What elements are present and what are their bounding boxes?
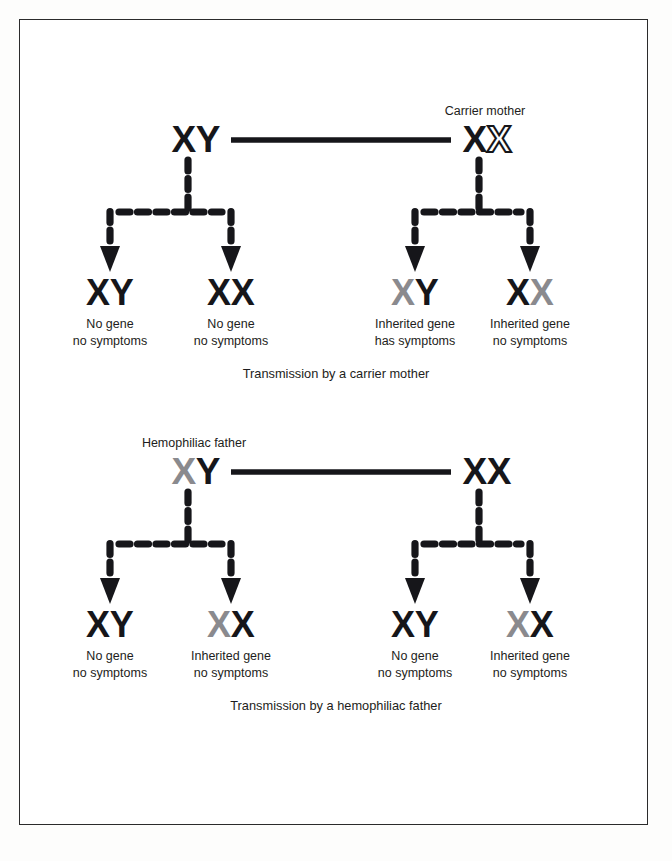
hemophiliac-father-panel-branch-right-dashed-path bbox=[415, 492, 530, 578]
hemophiliac-father-panel-mother-genotype-allele-2-normal: X bbox=[487, 451, 512, 492]
hemophiliac-father-panel-child-3-genotype-allele-1-normal: X bbox=[391, 604, 415, 645]
carrier-mother-panel-branch-left-arrowhead-1-icon bbox=[100, 246, 120, 272]
hemophiliac-father-panel-child-1-genotype-allele-2-normal: Y bbox=[110, 604, 134, 645]
hemophiliac-father-panel-branch-left bbox=[100, 492, 241, 604]
carrier-mother-panel-child-4-line1: Inherited gene bbox=[490, 317, 570, 331]
carrier-mother-panel: XYXXCarrier motherXYNo geneno symptomsXX… bbox=[73, 104, 570, 381]
carrier-mother-panel-child-4-line2: no symptoms bbox=[493, 334, 567, 348]
hemophiliac-father-panel-child-2-genotype-allele-1-affected: X bbox=[207, 604, 231, 645]
hemophiliac-father-panel-mother-genotype-allele-1-normal: X bbox=[462, 451, 487, 492]
carrier-mother-panel-child-3-line1: Inherited gene bbox=[375, 317, 455, 331]
hemophiliac-father-panel-branch-left-arrowhead-1-icon bbox=[100, 578, 120, 604]
carrier-mother-panel-father-genotype: XY bbox=[171, 119, 220, 160]
inheritance-diagram: XYXXCarrier motherXYNo geneno symptomsXX… bbox=[0, 0, 672, 861]
page-canvas: XYXXCarrier motherXYNo geneno symptomsXX… bbox=[0, 0, 672, 861]
hemophiliac-father-panel-child-1-line1: No gene bbox=[86, 649, 133, 663]
carrier-mother-panel-child-4-genotype: XX bbox=[506, 272, 554, 313]
carrier-mother-panel-mother-genotype-allele-2-carrier: X bbox=[487, 119, 512, 160]
hemophiliac-father-panel-child-3-genotype: XY bbox=[391, 604, 439, 645]
hemophiliac-father-panel-child-2-line1: Inherited gene bbox=[191, 649, 271, 663]
hemophiliac-father-panel-branch-right-arrowhead-2-icon bbox=[520, 578, 540, 604]
hemophiliac-father-panel: XYXXHemophiliac fatherXYNo geneno sympto… bbox=[73, 436, 570, 713]
hemophiliac-father-panel-child-1-genotype-allele-1-normal: X bbox=[86, 604, 110, 645]
carrier-mother-panel-branch-right-dashed-path bbox=[415, 160, 530, 246]
carrier-mother-panel-child-3-line2: has symptoms bbox=[375, 334, 456, 348]
carrier-mother-panel-branch-left bbox=[100, 160, 241, 272]
hemophiliac-father-panel-child-1-line2: no symptoms bbox=[73, 666, 147, 680]
carrier-mother-panel-child-3-genotype: XY bbox=[391, 272, 439, 313]
hemophiliac-father-panel-child-2-genotype-allele-2-normal: X bbox=[231, 604, 255, 645]
hemophiliac-father-panel-child-4-genotype-allele-1-affected: X bbox=[506, 604, 530, 645]
carrier-mother-panel-caption: Transmission by a carrier mother bbox=[243, 366, 430, 381]
carrier-mother-panel-mother-label: Carrier mother bbox=[445, 104, 526, 118]
carrier-mother-panel-child-1-line1: No gene bbox=[86, 317, 133, 331]
carrier-mother-panel-child-2-genotype-allele-1-normal: X bbox=[207, 272, 231, 313]
hemophiliac-father-panel-branch-left-arrowhead-2-icon bbox=[221, 578, 241, 604]
carrier-mother-panel-child-2-genotype-allele-2-normal: X bbox=[231, 272, 255, 313]
hemophiliac-father-panel-mother-genotype: XX bbox=[462, 451, 511, 492]
carrier-mother-panel-branch-right-arrowhead-1-icon bbox=[405, 246, 425, 272]
hemophiliac-father-panel-child-4-line1: Inherited gene bbox=[490, 649, 570, 663]
hemophiliac-father-panel-child-2-line2: no symptoms bbox=[194, 666, 268, 680]
carrier-mother-panel-branch-right bbox=[405, 160, 540, 272]
carrier-mother-panel-child-2-line2: no symptoms bbox=[194, 334, 268, 348]
carrier-mother-panel-branch-left-dashed-path bbox=[110, 160, 231, 246]
carrier-mother-panel-mother-genotype-allele-1-normal: X bbox=[462, 119, 487, 160]
carrier-mother-panel-child-3-genotype-allele-1-affected: X bbox=[391, 272, 415, 313]
carrier-mother-panel-child-4-genotype-allele-2-affected: X bbox=[530, 272, 554, 313]
hemophiliac-father-panel-caption: Transmission by a hemophiliac father bbox=[230, 698, 442, 713]
hemophiliac-father-panel-child-4-genotype-allele-2-normal: X bbox=[530, 604, 554, 645]
hemophiliac-father-panel-child-4-genotype: XX bbox=[506, 604, 554, 645]
carrier-mother-panel-child-1-genotype-allele-1-normal: X bbox=[86, 272, 110, 313]
hemophiliac-father-panel-child-2-genotype: XX bbox=[207, 604, 255, 645]
hemophiliac-father-panel-child-3-line1: No gene bbox=[391, 649, 438, 663]
hemophiliac-father-panel-father-genotype: XY bbox=[171, 451, 220, 492]
hemophiliac-father-panel-branch-right bbox=[405, 492, 540, 604]
hemophiliac-father-panel-child-4-line2: no symptoms bbox=[493, 666, 567, 680]
carrier-mother-panel-father-genotype-allele-2-normal: Y bbox=[196, 119, 221, 160]
carrier-mother-panel-child-1-genotype-allele-2-normal: Y bbox=[110, 272, 134, 313]
carrier-mother-panel-child-4-genotype-allele-1-normal: X bbox=[506, 272, 530, 313]
carrier-mother-panel-child-1-genotype: XY bbox=[86, 272, 134, 313]
carrier-mother-panel-child-3-genotype-allele-2-normal: Y bbox=[415, 272, 439, 313]
hemophiliac-father-panel-father-label: Hemophiliac father bbox=[142, 436, 246, 450]
carrier-mother-panel-mother-genotype: XX bbox=[462, 119, 511, 160]
carrier-mother-panel-father-genotype-allele-1-normal: X bbox=[171, 119, 196, 160]
hemophiliac-father-panel-father-genotype-allele-1-affected: X bbox=[171, 451, 196, 492]
hemophiliac-father-panel-child-3-genotype-allele-2-normal: Y bbox=[415, 604, 439, 645]
carrier-mother-panel-child-2-line1: No gene bbox=[207, 317, 254, 331]
hemophiliac-father-panel-father-genotype-allele-2-normal: Y bbox=[196, 451, 221, 492]
hemophiliac-father-panel-branch-right-arrowhead-1-icon bbox=[405, 578, 425, 604]
carrier-mother-panel-child-2-genotype: XX bbox=[207, 272, 255, 313]
carrier-mother-panel-branch-right-arrowhead-2-icon bbox=[520, 246, 540, 272]
hemophiliac-father-panel-child-1-genotype: XY bbox=[86, 604, 134, 645]
carrier-mother-panel-branch-left-arrowhead-2-icon bbox=[221, 246, 241, 272]
hemophiliac-father-panel-child-3-line2: no symptoms bbox=[378, 666, 452, 680]
carrier-mother-panel-child-1-line2: no symptoms bbox=[73, 334, 147, 348]
hemophiliac-father-panel-branch-left-dashed-path bbox=[110, 492, 231, 578]
